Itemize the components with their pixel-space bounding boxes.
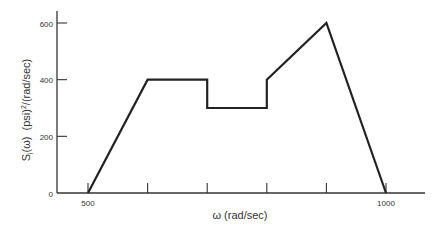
x-axis-label: ω (rad/sec) bbox=[212, 209, 267, 221]
y-tick-label: 400 bbox=[40, 76, 54, 85]
x-tick-label: 1000 bbox=[377, 199, 395, 208]
y-axis-label: Si(ω)(psi)2/(rad/sec) bbox=[20, 59, 34, 162]
chart-svg: 02004006005001000 ω (rad/sec) Si(ω)(psi)… bbox=[0, 0, 445, 228]
ticks: 02004006005001000 bbox=[40, 20, 396, 209]
axes bbox=[57, 11, 425, 193]
y-tick-label: 600 bbox=[40, 20, 54, 29]
psd-chart: 02004006005001000 ω (rad/sec) Si(ω)(psi)… bbox=[0, 0, 445, 228]
y-tick-label: 200 bbox=[40, 133, 54, 142]
x-tick-label: 500 bbox=[81, 199, 95, 208]
svg-text:Si(ω)(psi)2/(rad/sec): Si(ω)(psi)2/(rad/sec) bbox=[20, 59, 34, 162]
y-tick-label: 0 bbox=[49, 190, 54, 199]
spectrum-line bbox=[88, 23, 386, 193]
